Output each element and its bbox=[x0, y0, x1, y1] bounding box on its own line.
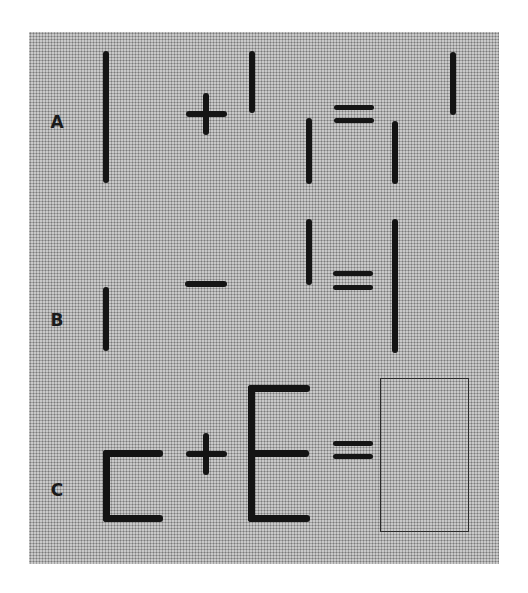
long-stick bbox=[103, 51, 109, 183]
short-stick bbox=[306, 118, 312, 184]
minus-sign bbox=[185, 281, 227, 287]
short-stick bbox=[450, 52, 456, 115]
short-stick bbox=[306, 219, 312, 285]
answer-box[interactable] bbox=[380, 378, 469, 532]
short-stick bbox=[249, 51, 255, 113]
long-stick bbox=[392, 219, 398, 353]
row-label-a: A bbox=[47, 112, 67, 132]
row-label-b: B bbox=[47, 310, 67, 330]
short-stick bbox=[392, 121, 398, 184]
short-stick bbox=[103, 287, 109, 351]
row-label-c: C bbox=[47, 480, 67, 500]
